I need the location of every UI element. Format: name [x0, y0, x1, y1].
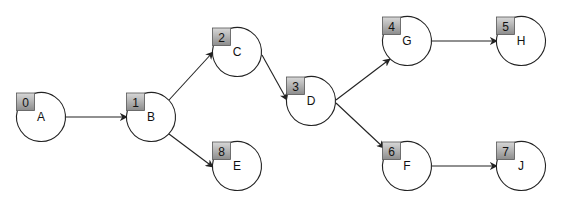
node-A: 0A: [16, 92, 65, 141]
node-name-label: J: [518, 159, 524, 173]
node-name-label: E: [233, 159, 241, 173]
node-H: 5H: [497, 17, 546, 66]
node-J: 7J: [497, 142, 546, 191]
node-index-label: 0: [22, 96, 29, 110]
node-name-label: D: [307, 94, 316, 108]
nodes-layer: 0A1B2C3D4G5H6F7J8E: [16, 16, 545, 190]
node-index-label: 5: [502, 20, 509, 34]
node-index-label: 3: [292, 80, 299, 94]
node-G: 4G: [383, 16, 432, 65]
node-name-label: C: [233, 45, 242, 59]
node-name-label: G: [402, 34, 411, 48]
edge-B-C: [169, 52, 213, 100]
node-name-label: A: [37, 110, 45, 124]
node-D: 3D: [287, 76, 336, 125]
node-B: 1B: [127, 92, 176, 141]
graph-diagram: 0A1B2C3D4G5H6F7J8E: [0, 0, 563, 202]
node-index-label: 8: [218, 145, 225, 159]
node-C: 2C: [212, 27, 261, 76]
node-index-label: 4: [388, 20, 395, 34]
node-index-label: 2: [218, 31, 225, 45]
edge-D-G: [336, 59, 390, 100]
edge-D-F: [336, 103, 384, 148]
edge-B-E: [169, 134, 213, 167]
node-name-label: F: [403, 159, 410, 173]
node-index-label: 1: [132, 96, 139, 110]
node-index-label: 6: [388, 145, 395, 159]
node-index-label: 7: [502, 145, 509, 159]
node-name-label: B: [147, 110, 155, 124]
node-name-label: H: [517, 34, 526, 48]
edge-C-D: [262, 55, 287, 100]
node-F: 6F: [383, 142, 432, 191]
node-E: 8E: [212, 142, 261, 191]
